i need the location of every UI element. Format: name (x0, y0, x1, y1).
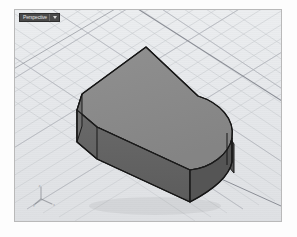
svg-text:y: y (33, 202, 35, 207)
model-contact-shadow (89, 197, 221, 215)
svg-text:z: z (39, 183, 41, 188)
viewport-title-label: Perspective (23, 14, 47, 21)
viewport-perspective[interactable]: z x y Perspective (14, 9, 282, 222)
viewport-title-tab[interactable]: Perspective (19, 13, 60, 22)
application-window: { "app": { "title": "3D CAD Modeling Vie… (0, 0, 297, 237)
axis-gizmo-icon: z x y (33, 183, 59, 207)
viewport-tab-divider (49, 14, 50, 21)
chevron-down-icon[interactable] (53, 16, 57, 19)
svg-text:x: x (53, 202, 55, 207)
viewport-canvas[interactable]: z x y (15, 10, 281, 221)
